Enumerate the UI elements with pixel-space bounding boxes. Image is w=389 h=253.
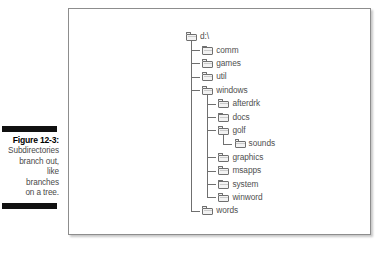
tree-node[interactable]: words <box>186 204 376 217</box>
tree-node[interactable]: util <box>186 70 376 83</box>
figure-caption: Figure 12-3: Subdirectories branch out, … <box>2 126 60 209</box>
tree-node-label: graphics <box>232 153 263 162</box>
folder-icon <box>202 206 213 215</box>
tree-node[interactable]: games <box>186 57 376 70</box>
tree-node-label: windows <box>216 86 247 95</box>
tree-branch-line <box>191 90 200 91</box>
tree-node[interactable]: graphics <box>186 151 376 164</box>
tree-node[interactable]: msapps <box>186 164 376 177</box>
folder-icon <box>218 113 229 122</box>
figure-number-label: Figure 12-3: <box>2 135 59 146</box>
tree-branch-line <box>223 144 232 145</box>
tree-node-label: golf <box>232 126 245 135</box>
tree-node-label: comm <box>216 46 238 55</box>
tree-branch-line <box>207 157 216 158</box>
tree-branch-line <box>207 171 216 172</box>
folder-icon <box>218 193 229 202</box>
tree-node[interactable]: docs <box>186 110 376 123</box>
caption-line: branch out, <box>2 157 59 168</box>
caption-text: Figure 12-3: Subdirectories branch out, … <box>2 132 60 200</box>
tree-branch-line <box>207 117 216 118</box>
folder-icon <box>235 139 246 148</box>
folder-icon <box>202 72 213 81</box>
caption-rule-bottom <box>2 203 57 209</box>
folder-icon <box>186 32 197 41</box>
folder-icon <box>218 126 229 135</box>
tree-node[interactable]: winword <box>186 191 376 204</box>
tree-node[interactable]: windows <box>186 84 376 97</box>
caption-line: branches <box>2 178 59 189</box>
tree-node[interactable]: comm <box>186 43 376 56</box>
tree-branch-line <box>191 211 200 212</box>
tree-node[interactable]: d:\ <box>186 30 376 43</box>
caption-line: on a tree. <box>2 188 59 199</box>
folder-icon <box>218 153 229 162</box>
tree-branch-line <box>207 104 216 105</box>
tree-node[interactable]: afterdrk <box>186 97 376 110</box>
tree-node-label: system <box>232 180 258 189</box>
folder-icon <box>202 46 213 55</box>
tree-branch-line <box>207 184 216 185</box>
tree-branch-line <box>207 197 216 198</box>
tree-node[interactable]: sounds <box>186 137 376 150</box>
tree-node-label: afterdrk <box>232 99 260 108</box>
tree-node[interactable]: golf <box>186 124 376 137</box>
folder-icon <box>202 59 213 68</box>
folder-icon <box>218 99 229 108</box>
caption-line: like <box>2 167 59 178</box>
figure-panel: d:\commgamesutilwindowsafterdrkdocsgolfs… <box>68 8 371 235</box>
folder-icon <box>218 180 229 189</box>
tree-node-label: util <box>216 72 226 81</box>
tree-node-label: games <box>216 59 241 68</box>
tree-node-label: d:\ <box>200 32 209 41</box>
caption-line: Subdirectories <box>2 146 59 157</box>
tree-branch-line <box>191 50 200 51</box>
tree-node-label: winword <box>232 193 262 202</box>
tree-branch-line <box>191 63 200 64</box>
tree-node[interactable]: system <box>186 177 376 190</box>
tree-node-label: words <box>216 206 238 215</box>
tree-node-label: docs <box>232 113 249 122</box>
tree-node-label: msapps <box>232 166 261 175</box>
folder-icon <box>218 166 229 175</box>
tree-branch-line <box>191 77 200 78</box>
tree-node-label: sounds <box>249 139 275 148</box>
folder-icon <box>202 86 213 95</box>
directory-tree: d:\commgamesutilwindowsafterdrkdocsgolfs… <box>186 30 389 218</box>
tree-branch-line <box>207 130 216 131</box>
